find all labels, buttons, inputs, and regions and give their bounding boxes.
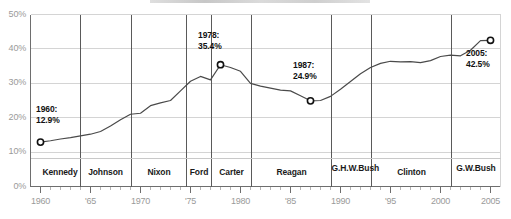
y-tick-label-30: 30%: [0, 77, 26, 87]
x-tick-label-1975: '75: [171, 196, 211, 206]
x-tick-label-1980: 1980: [221, 196, 261, 206]
annotation-value-1960: 12.9%: [36, 115, 60, 126]
y-tick-label-0: 0%: [0, 181, 26, 191]
x-tick-label-1995: '95: [371, 196, 411, 206]
annotation-value-2005: 42.5%: [466, 59, 490, 70]
y-tick-label-20: 20%: [0, 112, 26, 122]
era-label-clinton: Clinton: [372, 168, 452, 177]
chart-container: 0%10%20%30%40%50% 1960'651970'751980'851…: [0, 0, 511, 219]
annotation-2005: 2005:42.5%: [466, 48, 490, 69]
data-line-percent: [41, 40, 491, 142]
x-tick-label-2000: 2000: [421, 196, 461, 206]
x-tick-label-1985: '85: [271, 196, 311, 206]
data-point-marker-2005[interactable]: [487, 37, 493, 43]
annotation-value-1987: 24.9%: [293, 71, 317, 82]
annotation-year-1978: 1978:: [198, 30, 222, 41]
annotation-1960: 1960:12.9%: [36, 104, 60, 125]
era-label-gwbush: G.W.Bush: [452, 164, 501, 173]
y-tick-label-50: 50%: [0, 9, 26, 19]
x-tick-label-2005: 2005: [471, 196, 511, 206]
era-label-carter: Carter: [212, 168, 252, 177]
x-tick-label-1990: 1990: [321, 196, 361, 206]
era-label-kennedy: Kennedy: [41, 168, 80, 177]
annotation-value-1978: 35.4%: [198, 41, 222, 52]
era-label-reagan: Reagan: [252, 168, 332, 177]
chart-canvas: [0, 0, 511, 219]
annotation-1978: 1978:35.4%: [198, 30, 222, 51]
data-point-marker-1960[interactable]: [37, 139, 43, 145]
era-label-ford: Ford: [187, 168, 212, 177]
x-tick-label-1965: '65: [71, 196, 111, 206]
y-tick-label-40: 40%: [0, 43, 26, 53]
annotation-year-2005: 2005:: [466, 48, 490, 59]
x-tick-label-1970: 1970: [121, 196, 161, 206]
annotation-year-1987: 1987:: [293, 60, 317, 71]
annotation-year-1960: 1960:: [36, 104, 60, 115]
era-label-johnson: Johnson: [80, 168, 132, 177]
data-point-marker-1987[interactable]: [307, 98, 313, 104]
y-tick-label-10: 10%: [0, 146, 26, 156]
x-tick-label-1960: 1960: [21, 196, 61, 206]
annotation-1987: 1987:24.9%: [293, 60, 317, 81]
era-label-nixon: Nixon: [132, 168, 187, 177]
data-point-marker-1978[interactable]: [217, 62, 223, 68]
era-label-ghwbush: G.H.W.Bush: [332, 164, 372, 173]
